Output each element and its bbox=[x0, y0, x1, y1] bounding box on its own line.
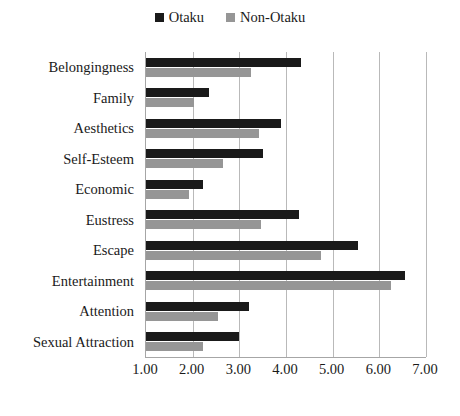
bar-non-otaku bbox=[146, 190, 189, 199]
x-axis-tick-labels: 1.002.003.004.005.006.007.00 bbox=[145, 362, 425, 386]
bar-group bbox=[146, 327, 426, 358]
square-swatch-icon bbox=[155, 13, 164, 22]
chart-legend: Otaku Non-Otaku bbox=[0, 10, 460, 25]
bar-group bbox=[146, 296, 426, 327]
y-axis-label: Escape bbox=[93, 243, 134, 258]
bar-otaku bbox=[146, 58, 301, 67]
legend-item-non-otaku: Non-Otaku bbox=[226, 10, 305, 25]
y-axis-label: Aesthetics bbox=[74, 121, 134, 136]
square-swatch-icon bbox=[226, 13, 235, 22]
bar-non-otaku bbox=[146, 342, 203, 351]
y-axis-label: Attention bbox=[79, 304, 134, 319]
x-axis-tick-label: 7.00 bbox=[412, 362, 437, 377]
bar-otaku bbox=[146, 332, 239, 341]
bar-group bbox=[146, 52, 426, 83]
bar-non-otaku bbox=[146, 68, 251, 77]
grouped-bar-chart: Otaku Non-Otaku BelongingnessFamilyAesth… bbox=[0, 0, 460, 416]
bar-non-otaku bbox=[146, 220, 261, 229]
bar-rows bbox=[146, 52, 426, 357]
y-axis-label: Economic bbox=[75, 182, 134, 197]
bar-group bbox=[146, 235, 426, 266]
x-axis-tick-label: 2.00 bbox=[179, 362, 204, 377]
x-axis-tick-label: 3.00 bbox=[226, 362, 251, 377]
y-axis-label: Entertainment bbox=[52, 274, 134, 289]
bar-otaku bbox=[146, 271, 405, 280]
y-axis-label: Self-Esteem bbox=[63, 152, 134, 167]
y-axis-label: Belongingness bbox=[49, 60, 134, 75]
legend-label: Non-Otaku bbox=[240, 10, 305, 25]
bar-otaku bbox=[146, 210, 299, 219]
bar-group bbox=[146, 174, 426, 205]
bar-otaku bbox=[146, 302, 249, 311]
legend-label: Otaku bbox=[169, 10, 204, 25]
bar-otaku bbox=[146, 149, 263, 158]
bar-non-otaku bbox=[146, 159, 223, 168]
bar-non-otaku bbox=[146, 129, 259, 138]
legend-item-otaku: Otaku bbox=[155, 10, 204, 25]
bar-group bbox=[146, 266, 426, 297]
bar-non-otaku bbox=[146, 281, 391, 290]
bar-otaku bbox=[146, 180, 203, 189]
y-axis-category-labels: BelongingnessFamilyAestheticsSelf-Esteem… bbox=[0, 52, 140, 357]
y-axis-label: Sexual Attraction bbox=[33, 335, 134, 350]
x-axis-tick-label: 6.00 bbox=[366, 362, 391, 377]
gridline bbox=[426, 52, 427, 357]
y-axis-label: Eustress bbox=[86, 213, 134, 228]
bar-non-otaku bbox=[146, 312, 218, 321]
bar-group bbox=[146, 83, 426, 114]
plot-area bbox=[145, 52, 426, 358]
x-axis-tick-label: 4.00 bbox=[272, 362, 297, 377]
bar-group bbox=[146, 144, 426, 175]
bar-otaku bbox=[146, 119, 281, 128]
bar-group bbox=[146, 113, 426, 144]
x-axis-tick-label: 1.00 bbox=[132, 362, 157, 377]
y-axis-label: Family bbox=[93, 91, 134, 106]
bar-group bbox=[146, 205, 426, 236]
bar-otaku bbox=[146, 241, 358, 250]
bar-non-otaku bbox=[146, 98, 194, 107]
bar-otaku bbox=[146, 88, 209, 97]
bar-non-otaku bbox=[146, 251, 321, 260]
x-axis-tick-label: 5.00 bbox=[319, 362, 344, 377]
